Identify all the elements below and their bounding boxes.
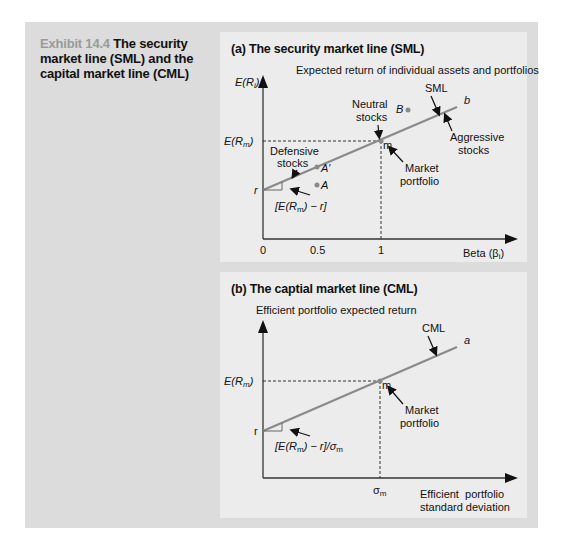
point-b xyxy=(406,108,411,113)
point-a-prime-label: A′ xyxy=(320,162,331,174)
sml-x-tick-1: 1 xyxy=(378,244,384,256)
cml-y-axis-arrow-icon xyxy=(258,320,268,333)
cml-chart: Efficient portfolio expected return E(Rm… xyxy=(220,272,527,518)
defensive-annotation-1: Defensive xyxy=(270,145,319,157)
cml-annotation: CML xyxy=(422,322,445,334)
exhibit-title: Exhibit 14.4 The security market line (S… xyxy=(40,36,210,81)
cml-market-annotation-2: portfolio xyxy=(400,417,439,429)
sml-chart: Expected return of individual assets and… xyxy=(220,32,527,262)
point-a-label: A xyxy=(320,179,328,191)
point-a-prime xyxy=(315,165,320,170)
defensive-arrow-icon xyxy=(294,170,297,175)
defensive-annotation-2: stocks xyxy=(277,157,309,169)
cml-market-arrow-icon xyxy=(390,389,403,404)
sml-erm-label: E(Rm) xyxy=(224,135,254,149)
neutral-annotation-1: Neutral xyxy=(352,98,387,110)
cml-x-label-1: Efficient portfolio xyxy=(420,488,504,500)
cml-slope-arrow-icon xyxy=(294,431,310,436)
exhibit-title-line-3: capital market line (CML) xyxy=(40,66,189,81)
market-annotation-1: Market xyxy=(405,162,439,174)
cml-market-annotation-1: Market xyxy=(405,404,439,416)
aggressive-arrow-icon xyxy=(446,117,452,131)
cml-panel: (b) The captial market line (CML) Effici… xyxy=(220,272,527,518)
exhibit-label: Exhibit 14.4 xyxy=(40,36,110,51)
cml-r-label: r xyxy=(254,425,258,437)
exhibit-title-line-1: The security xyxy=(113,36,187,51)
market-annotation-2: portfolio xyxy=(400,175,439,187)
sml-panel: (a) The security market line (SML) Expec… xyxy=(220,32,527,262)
sml-x-axis-arrow-icon xyxy=(505,234,518,244)
slope-arrow-icon xyxy=(294,190,310,195)
cml-y-caption: Efficient portfolio expected return xyxy=(256,304,417,316)
sml-slope-label: [E(Rm) − r] xyxy=(274,200,328,214)
point-a xyxy=(315,183,320,188)
neutral-annotation-2: stocks xyxy=(356,111,388,123)
exhibit-title-line-2: market line (SML) and the xyxy=(40,51,193,66)
sml-annotation: SML xyxy=(425,82,448,94)
sml-x-tick-05: 0.5 xyxy=(310,244,325,256)
neutral-arrow-icon xyxy=(378,125,379,135)
sml-y-axis-arrow-icon xyxy=(258,75,268,88)
sml-y-label: E(Ri) xyxy=(235,76,260,90)
cml-x-tick-sigma: σm xyxy=(373,484,387,498)
cml-slope-label: [E(Rm) − r]/σm xyxy=(274,440,343,454)
aggressive-annotation-1: Aggressive xyxy=(450,131,504,143)
sml-arrow-icon xyxy=(431,96,438,112)
cml-x-axis-arrow-icon xyxy=(505,473,518,483)
sml-r-label: r xyxy=(254,184,259,196)
cml-erm-label: E(Rm) xyxy=(224,375,254,389)
sml-x-tick-0: 0 xyxy=(260,244,266,256)
sml-end-label: b xyxy=(464,94,470,106)
cml-end-label: a xyxy=(464,334,470,346)
sml-y-caption: Expected return of individual assets and… xyxy=(296,64,539,76)
cml-arrow-icon xyxy=(428,336,435,352)
market-arrow-icon xyxy=(391,149,403,162)
point-b-label: B xyxy=(396,103,403,115)
cml-x-label-2: standard deviation xyxy=(420,501,510,513)
sml-x-label: Beta (βi) xyxy=(463,247,504,261)
aggressive-annotation-2: stocks xyxy=(458,144,490,156)
